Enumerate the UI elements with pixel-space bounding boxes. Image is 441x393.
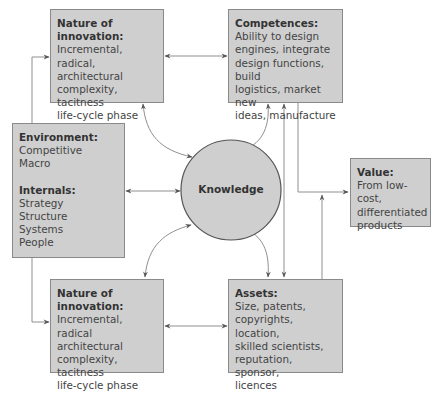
innovation-top-line: life-cycle phase xyxy=(57,109,158,122)
innovation-bottom-box: Nature of innovation: Incremental, radic… xyxy=(50,279,164,373)
internals-line: People xyxy=(19,236,119,249)
environment-line: Macro xyxy=(19,157,119,170)
arrow-environment-to-innovation-top xyxy=(32,57,49,123)
arrow-innovation-bottom-knowledge xyxy=(145,225,191,277)
internals-line: Systems xyxy=(19,223,119,236)
innovation-top-box: Nature of innovation: Incremental, radic… xyxy=(50,9,164,103)
environment-title: Environment: xyxy=(19,131,119,144)
innovation-top-title: Nature of innovation: xyxy=(57,17,158,43)
innovation-top-line: Incremental, radical, xyxy=(57,43,158,69)
environment-line: Competitive xyxy=(19,144,119,157)
competences-line: Ability to design xyxy=(235,30,337,43)
assets-line: Size, patents, xyxy=(235,300,337,313)
competences-line: ideas, manufacture xyxy=(235,109,337,122)
value-line: From low-cost, xyxy=(357,179,425,205)
assets-box: Assets: Size, patents, copyrights, locat… xyxy=(228,279,343,373)
innovation-bottom-title: Nature of innovation: xyxy=(57,287,158,313)
innovation-bottom-line: life-cycle phase xyxy=(57,379,158,392)
value-box: Value: From low-cost, differentiated pro… xyxy=(350,158,431,227)
innovation-top-line: complexity, tacitness xyxy=(57,83,158,109)
assets-title: Assets: xyxy=(235,287,337,300)
value-title: Value: xyxy=(357,166,425,179)
innovation-bottom-line: complexity, tacitness xyxy=(57,353,158,379)
assets-line: skilled scientists, xyxy=(235,340,337,353)
value-line: differentiated xyxy=(357,206,425,219)
internals-title: Internals: xyxy=(19,184,119,197)
innovation-bottom-line: Incremental, radical xyxy=(57,313,158,339)
competences-box: Competences: Ability to design engines, … xyxy=(228,9,343,103)
innovation-top-line: architectural xyxy=(57,70,158,83)
competences-line: engines, integrate xyxy=(235,43,337,56)
value-line: products xyxy=(357,219,425,232)
assets-line: licences xyxy=(235,379,337,392)
assets-line: reputation, sponsor, xyxy=(235,353,337,379)
competences-line: logistics, market new xyxy=(235,83,337,109)
assets-line: copyrights, location, xyxy=(235,313,337,339)
arrow-environment-to-innovation-bottom xyxy=(32,257,49,322)
knowledge-label: Knowledge xyxy=(181,183,281,195)
environment-box: Environment: Competitive Macro Internals… xyxy=(12,123,125,258)
innovation-bottom-line: architectural xyxy=(57,340,158,353)
internals-line: Structure xyxy=(19,210,119,223)
internals-line: Strategy xyxy=(19,197,119,210)
competences-line: design functions, build xyxy=(235,57,337,83)
competences-title: Competences: xyxy=(235,17,337,30)
